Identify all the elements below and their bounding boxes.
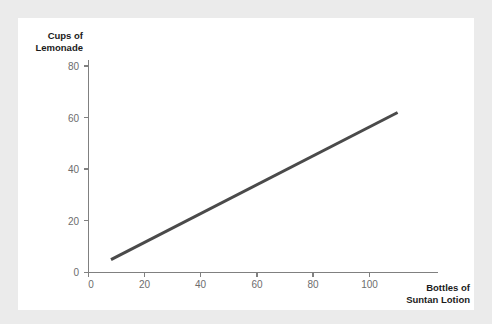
- x-tick-label-80: 80: [307, 279, 319, 290]
- y-axis-title: Cups of Lemonade: [35, 30, 83, 53]
- y-tick-label-60: 60: [68, 113, 80, 124]
- x-axis-title-line-2: Suntan Lotion: [406, 294, 470, 305]
- y-tick-label-0: 0: [73, 267, 79, 278]
- y-tick-label-20: 20: [68, 216, 80, 227]
- x-tick-label-40: 40: [195, 279, 207, 290]
- x-tick-label-60: 60: [251, 279, 263, 290]
- x-axis-title: Bottles of Suntan Lotion: [406, 282, 471, 305]
- y-axis-title-line-2: Lemonade: [35, 42, 83, 53]
- chart-screenshot: 0 20 40 60 80 0 20 40 60 80 100 Cups of: [0, 0, 492, 324]
- x-axis-tick-labels: 0 20 40 60 80 100: [88, 279, 378, 290]
- x-axis-title-line-1: Bottles of: [426, 282, 471, 293]
- x-tick-label-20: 20: [139, 279, 151, 290]
- y-axis-tick-labels: 0 20 40 60 80: [68, 61, 80, 278]
- data-series-line: [111, 112, 398, 259]
- y-tick-label-40: 40: [68, 164, 80, 175]
- x-tick-label-0: 0: [88, 279, 94, 290]
- y-axis-title-line-1: Cups of: [48, 30, 84, 41]
- scatter-line-chart: 0 20 40 60 80 0 20 40 60 80 100 Cups of: [0, 0, 492, 324]
- y-tick-label-80: 80: [68, 61, 80, 72]
- x-tick-label-100: 100: [361, 279, 378, 290]
